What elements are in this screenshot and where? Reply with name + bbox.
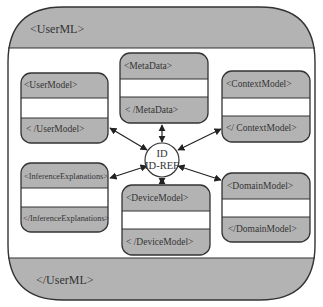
- device-model-close-tag: < /DeviceModel>: [126, 237, 193, 247]
- context-model-box: <ContextModel> </ ContextModel>: [222, 71, 310, 142]
- inference-explanations-box: <InferenceExplanations> </InferenceExpla…: [21, 163, 110, 232]
- meta-data-open-tag: <MetaData>: [124, 61, 172, 71]
- context-model-close-tag: </ ContextModel>: [226, 123, 297, 133]
- inference-explanations-open-tag: <InferenceExplanations>: [24, 172, 108, 181]
- domain-model-close-tag: </DomainModel>: [228, 224, 297, 234]
- meta-data-box: <MetaData> < /MetaData>: [120, 53, 208, 123]
- user-model-box: <UserModel> < /UserModel>: [21, 73, 108, 143]
- domain-model-box: <DomainModel> </DomainModel>: [222, 173, 310, 242]
- id-idref-hub: ID ID-REF: [145, 143, 179, 177]
- domain-model-open-tag: <DomainModel>: [227, 181, 293, 191]
- hub-idref-label: ID-REF: [145, 160, 179, 171]
- context-model-open-tag: <ContextModel>: [226, 79, 292, 89]
- user-model-open-tag: <UserModel>: [24, 80, 77, 90]
- userml-open-tag: <UserML>: [30, 22, 84, 36]
- userml-close-tag: </UserML>: [36, 273, 94, 287]
- hub-id-label: ID: [156, 148, 167, 159]
- user-model-close-tag: < /UserModel>: [26, 124, 84, 134]
- userml-diagram: <UserML> </UserML> <UserModel> < /UserMo…: [0, 0, 323, 307]
- device-model-box: <DeviceModel> < /DeviceModel>: [122, 185, 210, 255]
- device-model-open-tag: <DeviceModel>: [126, 193, 188, 203]
- meta-data-close-tag: < /MetaData>: [125, 105, 178, 115]
- inference-explanations-close-tag: </InferenceExplanations>: [23, 214, 110, 223]
